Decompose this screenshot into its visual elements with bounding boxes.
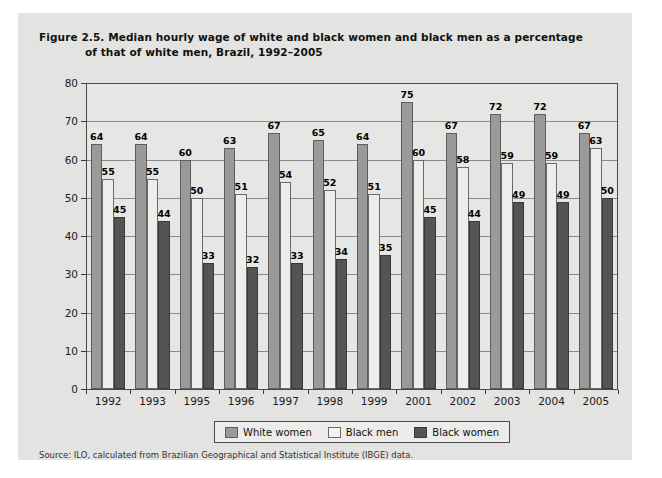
x-tick-label: 1997 [272,395,299,407]
bar-black-women-1997[interactable]: 33 [291,263,303,389]
bar-group: 675844 [446,83,481,389]
bar-value-label: 49 [556,189,569,200]
bar-value-label: 63 [223,135,236,146]
bar-value-label: 55 [102,166,115,177]
bar-value-label: 33 [290,250,303,261]
bar-black-women-1998[interactable]: 34 [336,259,348,389]
bar-black-men-1996[interactable]: 51 [235,194,247,389]
x-tick-label: 2002 [449,395,476,407]
x-tick-mark [396,390,397,394]
bar-black-men-2001[interactable]: 60 [413,160,425,390]
bar-value-label: 51 [368,181,381,192]
x-tick-label: 1993 [139,395,166,407]
bar-white-women-1992[interactable]: 64 [91,144,103,389]
legend-label: Black women [432,427,499,438]
x-tick-mark [86,390,87,394]
x-tick-mark [308,390,309,394]
y-tick-label: 80 [38,77,78,89]
bar-value-label: 45 [113,204,126,215]
x-tick-label: 1992 [95,395,122,407]
bar-white-women-2002[interactable]: 67 [446,133,458,389]
y-tick-label: 20 [38,307,78,319]
figure-title-line-2: of that of white men, Brazil, 1992–2005 [39,45,599,60]
bars-layer: 6455456455446050336351326754336552346451… [86,83,618,389]
bar-value-label: 50 [190,185,203,196]
x-tick-mark [574,390,575,394]
bar-value-label: 34 [335,246,348,257]
x-tick-mark [130,390,131,394]
bar-value-label: 59 [545,150,558,161]
bar-group: 675433 [268,83,303,389]
bar-value-label: 59 [501,150,514,161]
bar-black-women-2005[interactable]: 50 [602,198,614,389]
bar-value-label: 64 [90,131,103,142]
bar-group: 725949 [534,83,569,389]
bar-black-women-2003[interactable]: 49 [513,202,525,389]
bar-value-label: 72 [533,101,546,112]
bar-black-men-1997[interactable]: 54 [280,182,292,389]
legend-item-black-men[interactable]: Black men [328,427,398,438]
bar-value-label: 65 [312,127,325,138]
x-tick-label: 1995 [183,395,210,407]
bar-black-women-1995[interactable]: 33 [203,263,215,389]
bar-value-label: 60 [412,147,425,158]
bar-black-women-2004[interactable]: 49 [557,202,569,389]
x-tick-label: 2005 [582,395,609,407]
x-tick-label: 1998 [316,395,343,407]
x-tick-label: 1996 [228,395,255,407]
bar-group: 635132 [224,83,259,389]
x-tick-mark [175,390,176,394]
legend-label: White women [243,427,312,438]
y-tick-label: 40 [38,230,78,242]
x-tick-label: 1999 [361,395,388,407]
bar-value-label: 44 [468,208,481,219]
bar-black-women-2001[interactable]: 45 [424,217,436,389]
x-tick-mark [263,390,264,394]
x-tick-label: 2004 [538,395,565,407]
bar-value-label: 54 [279,169,292,180]
bar-group: 645544 [135,83,170,389]
bar-group: 655234 [313,83,348,389]
bar-value-label: 63 [589,135,602,146]
figure-panel: Figure 2.5. Median hourly wage of white … [18,13,632,460]
legend-swatch-icon [225,427,238,438]
bar-black-women-1993[interactable]: 44 [158,221,170,389]
bar-black-women-1999[interactable]: 35 [380,255,392,389]
bar-white-women-2005[interactable]: 67 [579,133,591,389]
bar-group: 645135 [357,83,392,389]
x-tick-label: 2003 [494,395,521,407]
bar-black-men-1999[interactable]: 51 [368,194,380,389]
legend-swatch-icon [328,427,341,438]
y-tick-label: 30 [38,268,78,280]
bar-value-label: 75 [400,89,413,100]
bar-white-women-2001[interactable]: 75 [401,102,413,389]
bar-value-label: 44 [157,208,170,219]
x-tick-mark [441,390,442,394]
y-tick-label: 0 [38,383,78,395]
chart-legend: White womenBlack menBlack women [214,421,510,443]
y-tick-label: 10 [38,345,78,357]
bar-value-label: 67 [267,120,280,131]
bar-black-women-1996[interactable]: 32 [247,267,259,389]
bar-black-women-1992[interactable]: 45 [114,217,126,389]
bar-black-women-2002[interactable]: 44 [469,221,481,389]
bar-value-label: 55 [146,166,159,177]
bar-black-men-1995[interactable]: 50 [191,198,203,389]
bar-value-label: 64 [134,131,147,142]
bar-value-label: 64 [356,131,369,142]
bar-group: 725949 [490,83,525,389]
bar-white-women-1993[interactable]: 64 [135,144,147,389]
legend-item-black-women[interactable]: Black women [414,427,499,438]
bar-black-men-2002[interactable]: 58 [457,167,469,389]
legend-item-white-women[interactable]: White women [225,427,312,438]
figure-title: Figure 2.5. Median hourly wage of white … [39,30,599,60]
y-tick-label: 50 [38,192,78,204]
x-tick-mark [529,390,530,394]
legend-swatch-icon [414,427,427,438]
bar-value-label: 33 [202,250,215,261]
bar-value-label: 45 [423,204,436,215]
figure-title-line-1: Figure 2.5. Median hourly wage of white … [39,31,583,43]
bar-value-label: 52 [323,177,336,188]
bar-group: 605033 [180,83,215,389]
bar-black-men-1998[interactable]: 52 [324,190,336,389]
